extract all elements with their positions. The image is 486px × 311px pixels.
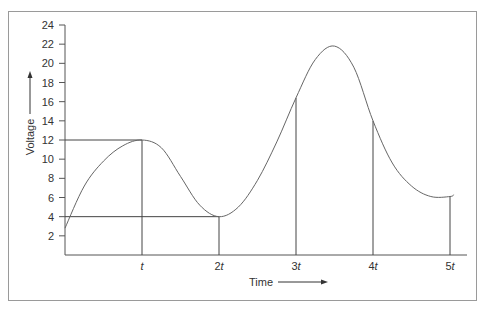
y-tick-label: 16 <box>42 96 54 108</box>
y-tick-label: 4 <box>48 211 54 223</box>
x-tick-label: 2t <box>214 260 224 272</box>
voltage-curve <box>65 46 454 228</box>
x-tick-label: 4t <box>368 260 378 272</box>
x-axis-ticks: t2t3t4t5t <box>140 260 455 272</box>
y-axis-title: Voltage <box>24 119 36 156</box>
y-tick-label: 20 <box>42 57 54 69</box>
y-tick-label: 22 <box>42 38 54 50</box>
y-tick-label: 14 <box>42 115 54 127</box>
y-axis-ticks: 24681012141618202224 <box>42 19 65 242</box>
guide-lines <box>65 98 450 255</box>
right-arrow-icon <box>321 280 328 285</box>
x-axis-title: Time <box>249 276 273 288</box>
y-tick-label: 12 <box>42 134 54 146</box>
y-tick-label: 18 <box>42 77 54 89</box>
voltage-time-chart: 24681012141618202224 t2t3t4t5t Voltage T… <box>0 0 486 311</box>
y-tick-label: 10 <box>42 153 54 165</box>
y-tick-label: 24 <box>42 19 54 31</box>
up-arrow-icon <box>28 71 33 78</box>
x-tick-label: 3t <box>291 260 301 272</box>
x-tick-label: t <box>140 260 144 272</box>
y-tick-label: 8 <box>48 172 54 184</box>
y-tick-label: 6 <box>48 192 54 204</box>
y-tick-label: 2 <box>48 230 54 242</box>
x-tick-label: 5t <box>445 260 455 272</box>
